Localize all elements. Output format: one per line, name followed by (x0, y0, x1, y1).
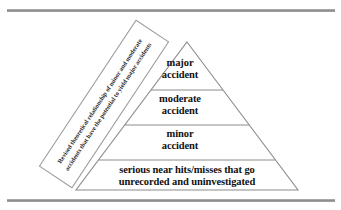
pyramid-tier-label-near-hits: serious near hits/misses that go unrecor… (88, 164, 286, 189)
pyramid-tier-label-major: major accident (150, 57, 210, 81)
bottom-horizontal-rule (7, 199, 335, 202)
pyramid-tier-label-moderate: moderate accident (142, 93, 218, 117)
pyramid-tier-label-minor: minor accident (142, 128, 218, 152)
figure-container: major accident moderate accident minor a… (0, 0, 341, 210)
